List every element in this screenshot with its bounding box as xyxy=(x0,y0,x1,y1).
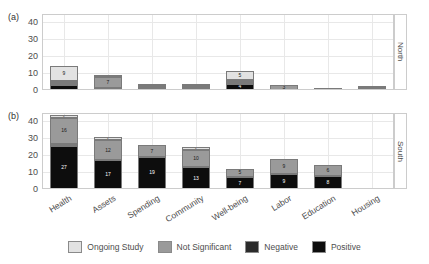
bar-segment-pos[interactable]: 4 xyxy=(226,84,253,90)
bar-segment-ns[interactable]: 16 xyxy=(50,118,77,144)
bar-assets[interactable]: 17122 xyxy=(94,137,121,189)
bar-value-label: 7 xyxy=(107,80,110,85)
bar-segment-pos[interactable]: 27 xyxy=(50,146,77,189)
bar-segment-og[interactable]: 2 xyxy=(182,147,209,150)
plot-area-north: 297425312 xyxy=(42,14,394,90)
bar-segment-ns[interactable]: 7 xyxy=(138,145,165,157)
bar-segment-ns[interactable] xyxy=(50,81,77,83)
bar-value-label: 2 xyxy=(239,82,242,84)
y-tick-label: 30 xyxy=(16,34,38,44)
y-tick-label: 30 xyxy=(16,133,38,143)
x-tick-label-assets: Assets xyxy=(68,193,117,229)
bar-segment-og[interactable]: 1 xyxy=(314,88,341,90)
gridline-horizontal xyxy=(42,73,394,74)
y-tick-label: 10 xyxy=(16,167,38,177)
bar-segment-pos[interactable] xyxy=(50,85,77,90)
y-tick-label: 40 xyxy=(16,17,38,27)
bar-segment-neg[interactable]: 2 xyxy=(50,83,77,85)
bar-well-being[interactable]: 425 xyxy=(226,71,253,90)
bar-segment-neg[interactable]: 2 xyxy=(226,82,253,84)
bar-segment-og[interactable]: 5 xyxy=(226,71,253,79)
bar-segment-og[interactable]: 2 xyxy=(50,115,77,118)
legend-item-negative[interactable]: Negative xyxy=(245,241,298,253)
legend-swatch xyxy=(158,241,172,253)
y-tick-label: 0 xyxy=(16,184,38,194)
bar-segment-og[interactable] xyxy=(182,84,209,86)
bar-segment-ns[interactable]: 6 xyxy=(314,165,341,175)
bar-segment-pos[interactable] xyxy=(182,88,209,90)
legend-label: Not Significant xyxy=(177,242,232,252)
bar-segment-ns[interactable]: 9 xyxy=(270,159,297,174)
y-tick-label: 20 xyxy=(16,150,38,160)
bar-segment-og[interactable] xyxy=(358,86,385,88)
bar-segment-pos[interactable]: 19 xyxy=(138,157,165,189)
legend-item-positive[interactable]: Positive xyxy=(312,241,361,253)
bar-health[interactable]: 29 xyxy=(50,66,77,90)
bar-segment-og[interactable]: 9 xyxy=(50,66,77,81)
bar-segment-ns[interactable]: 7 xyxy=(94,77,121,88)
bar-community[interactable]: 13102 xyxy=(182,147,209,189)
bar-assets[interactable]: 7 xyxy=(94,75,121,90)
bar-segment-ns[interactable] xyxy=(226,80,253,82)
bar-value-label: 12 xyxy=(105,148,111,153)
bar-segment-pos[interactable]: 7 xyxy=(226,177,253,189)
bar-segment-pos[interactable]: 9 xyxy=(270,174,297,189)
bar-value-label: 16 xyxy=(61,128,67,133)
legend-item-not-significant[interactable]: Not Significant xyxy=(158,241,232,253)
bar-segment-ns[interactable]: 3 xyxy=(270,85,297,90)
bar-segment-ns[interactable]: 10 xyxy=(182,150,209,167)
bar-labor[interactable]: 3 xyxy=(270,85,297,90)
bar-segment-pos[interactable]: 8 xyxy=(314,176,341,190)
bar-housing[interactable]: 2 xyxy=(358,87,385,90)
bar-spending[interactable]: 197 xyxy=(138,145,165,189)
bar-well-being[interactable]: 75 xyxy=(226,169,253,189)
bar-labor[interactable]: 99 xyxy=(270,159,297,189)
bar-education[interactable]: 1 xyxy=(314,87,341,90)
bar-value-label: 10 xyxy=(193,156,199,161)
bar-segment-pos[interactable] xyxy=(94,88,121,90)
legend-swatch xyxy=(245,241,259,253)
bar-value-label: 8 xyxy=(327,180,330,185)
bar-value-label: 9 xyxy=(283,164,286,169)
x-tick-label-health: Health xyxy=(24,193,73,229)
bar-value-label: 9 xyxy=(63,71,66,76)
facet-label-south: South xyxy=(396,141,405,162)
bar-value-label: 2 xyxy=(63,115,66,118)
bar-segment-neg[interactable] xyxy=(50,144,77,146)
gridline-horizontal xyxy=(42,121,394,122)
facet-strip-south: South xyxy=(394,113,407,189)
bar-health[interactable]: 27162 xyxy=(50,115,77,189)
bar-segment-og[interactable]: 2 xyxy=(94,137,121,140)
bar-segment-pos[interactable]: 13 xyxy=(182,167,209,189)
x-tick-label-labor: Labor xyxy=(244,193,293,229)
bar-value-label: 6 xyxy=(327,168,330,173)
gridline-horizontal xyxy=(42,22,394,23)
bar-segment-ns[interactable]: 12 xyxy=(94,140,121,160)
bar-spending[interactable] xyxy=(138,85,165,90)
bar-segment-og[interactable] xyxy=(138,84,165,86)
x-tick-label-spending: Spending xyxy=(112,193,161,229)
bar-segment-ns[interactable] xyxy=(182,86,209,88)
bar-segment-ns[interactable]: 5 xyxy=(226,169,253,177)
bar-housing[interactable] xyxy=(358,188,385,189)
y-tick-label: 0 xyxy=(16,85,38,95)
y-tick-label: 20 xyxy=(16,51,38,61)
bar-segment-ns[interactable] xyxy=(138,86,165,88)
legend-item-ongoing-study[interactable]: Ongoing Study xyxy=(68,241,143,253)
bar-value-label: 9 xyxy=(283,179,286,184)
facet-label-north: North xyxy=(396,42,405,62)
bar-segment-pos[interactable]: 2 xyxy=(358,88,385,90)
bar-segment-pos[interactable]: 17 xyxy=(94,160,121,189)
gridline-vertical xyxy=(152,14,153,90)
gridline-vertical xyxy=(372,14,373,90)
bar-segment-pos[interactable] xyxy=(138,88,165,90)
bar-education[interactable]: 86 xyxy=(314,165,341,189)
legend-swatch xyxy=(312,241,326,253)
bar-segment-og[interactable] xyxy=(94,75,121,77)
legend-swatch xyxy=(68,241,82,253)
bar-value-label: 7 xyxy=(239,181,242,186)
bar-community[interactable] xyxy=(182,85,209,90)
chart-root: (a) 297425312 North (b) 2716217122197131… xyxy=(0,0,429,264)
bar-value-label: 5 xyxy=(239,170,242,175)
bar-value-label: 1 xyxy=(327,88,330,90)
